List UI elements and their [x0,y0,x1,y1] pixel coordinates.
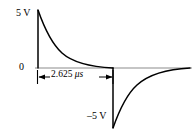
duration-unit: μs [75,69,83,79]
peak-voltage-label: 5 V [16,8,31,18]
duration-value: 2.625 [51,69,75,79]
negative-rise-curve [113,68,190,128]
positive-decay-curve [38,10,113,68]
trough-voltage-label: –5 V [87,111,107,121]
zero-voltage-label: 0 [19,62,24,72]
dimension-left-arrowhead [39,75,46,80]
waveform-figure: 5 V 0 –5 V 2.625 μs [0,0,194,132]
duration-label: 2.625 μs [51,70,83,80]
dimension-right-arrowhead [106,75,113,80]
